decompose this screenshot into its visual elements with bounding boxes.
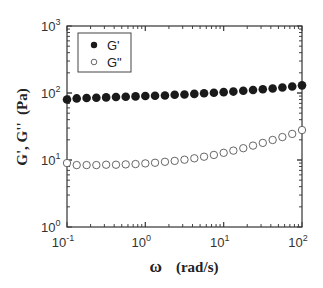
data-point [268,84,277,93]
omega-symbol: ω [150,257,162,276]
y-tick-label: 101 [41,151,60,168]
data-point [121,92,130,101]
data-series [63,81,307,169]
x-tick-label: 102 [288,233,307,250]
data-point [73,161,80,168]
data-point [161,91,170,100]
data-point [102,161,109,168]
data-point [249,142,256,149]
legend: G' G" [78,33,131,72]
data-point [83,161,90,168]
data-point [200,89,209,98]
data-point [259,85,268,94]
data-point [170,91,179,100]
data-point [190,90,199,99]
data-point [288,82,297,91]
data-point [210,88,219,97]
data-point [269,136,276,143]
y-tick-label: 103 [41,17,60,34]
y-tick-labels: 100101102103 [41,17,60,235]
x-tick-label: 100 [132,233,151,250]
y-tick-label: 100 [41,218,60,235]
data-point [279,133,286,140]
data-point [200,153,207,160]
y-tick-label: 102 [41,84,60,101]
legend-label-g-double-prime: G" [107,55,122,70]
series-g-prime [63,81,307,104]
x-tick-labels: 10-1100101102 [52,233,308,250]
x-axis-unit: (rad/s) [176,259,219,276]
data-point [219,88,228,97]
data-point [298,126,305,133]
data-point [220,149,227,156]
data-point [131,92,140,101]
data-point [132,160,139,167]
legend-label-g-prime: G' [107,38,120,53]
data-point [93,161,100,168]
legend-marker-open [91,59,97,65]
x-tick-label: 10-1 [52,233,74,250]
data-point [112,93,121,102]
rheology-chart: G' G" 10-1100101102 100101102103 ω(rad/s… [0,0,323,288]
data-point [142,160,149,167]
data-point [278,83,287,92]
data-point [122,161,129,168]
data-point [298,81,307,90]
legend-marker-filled [91,42,97,48]
data-point [230,147,237,154]
data-point [92,93,101,102]
data-point [180,90,189,99]
data-point [141,92,150,101]
data-point [240,145,247,152]
x-axis-title: ω(rad/s) [150,257,219,276]
data-point [82,94,91,103]
data-point [63,95,72,104]
data-point [210,151,217,158]
data-point [229,87,238,96]
data-point [181,156,188,163]
data-point [151,159,158,166]
x-tick-label: 101 [210,233,229,250]
data-point [191,155,198,162]
series-g-double-prime [63,126,305,168]
data-point [239,86,248,95]
data-point [289,130,296,137]
data-point [63,159,70,166]
data-point [112,161,119,168]
data-point [161,158,168,165]
data-point [171,157,178,164]
data-point [259,139,266,146]
y-axis-title: G', G'' (Pa) [14,88,31,166]
legend-box [78,33,131,72]
data-point [72,94,81,103]
data-point [102,93,111,102]
data-point [151,91,160,100]
data-point [249,86,258,95]
